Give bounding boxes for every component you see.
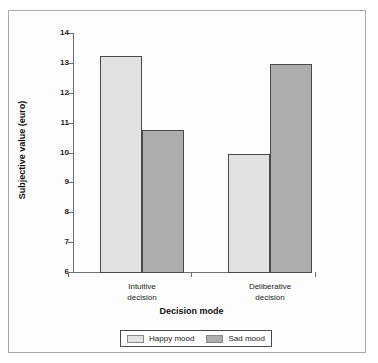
x-category-label-line: decision xyxy=(82,292,202,303)
legend-label-happy: Happy mood xyxy=(149,334,194,343)
y-axis-line xyxy=(73,33,74,273)
x-tick-mark xyxy=(315,272,316,277)
happy-swatch-icon xyxy=(127,335,144,343)
y-axis-title: Subjective value (euro) xyxy=(17,101,27,200)
bar-happy-0 xyxy=(100,56,142,273)
chart-legend: Happy mood Sad mood xyxy=(120,330,272,347)
x-category-label-line: decision xyxy=(210,292,330,303)
bar-sad-1 xyxy=(270,64,312,273)
y-tick-label: 9 xyxy=(65,178,69,186)
plot-area: 67891011121314 IntuitivedecisionDelibera… xyxy=(73,28,310,273)
x-category-label-line: Deliberative xyxy=(210,281,330,292)
y-tick-label: 14 xyxy=(60,29,69,37)
x-category-label: Intuitivedecision xyxy=(82,281,202,303)
y-tick-label: 8 xyxy=(65,208,69,216)
bar-happy-1 xyxy=(228,154,270,274)
x-tick-mark xyxy=(68,272,69,277)
legend-item-happy: Happy mood xyxy=(121,334,200,343)
bar-sad-0 xyxy=(142,130,184,273)
sad-swatch-icon xyxy=(206,335,223,343)
legend-item-sad: Sad mood xyxy=(200,334,270,343)
legend-label-sad: Sad mood xyxy=(228,334,264,343)
y-tick-label: 10 xyxy=(60,149,69,157)
x-category-label: Deliberativedecision xyxy=(210,281,330,303)
figure-container: Subjective value (euro) 67891011121314 I… xyxy=(0,0,378,363)
x-tick-mark xyxy=(191,272,192,277)
x-axis-title: Decision mode xyxy=(73,306,310,316)
y-tick-label: 7 xyxy=(65,238,69,246)
x-category-label-line: Intuitive xyxy=(82,281,202,292)
y-tick-label: 13 xyxy=(60,59,69,67)
y-tick-label: 11 xyxy=(61,119,69,127)
y-tick-label: 12 xyxy=(60,89,69,97)
